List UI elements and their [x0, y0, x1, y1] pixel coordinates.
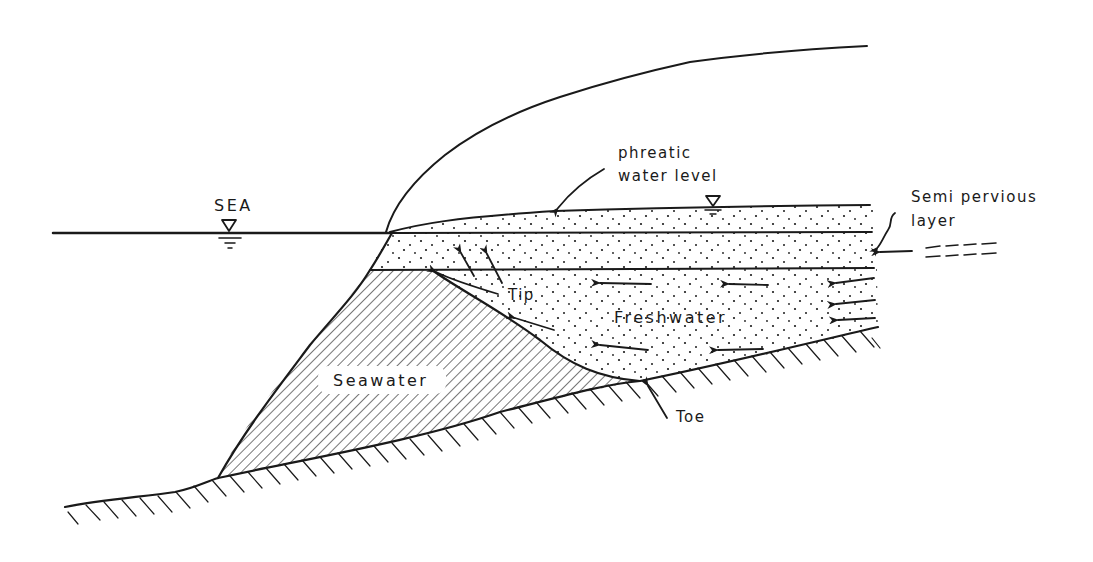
toe-label: Toe: [675, 408, 706, 426]
sea-label: SEA: [214, 196, 253, 215]
upper-aquifer-region: [370, 205, 877, 270]
phreatic-label-line1: phreatic: [618, 144, 692, 162]
semi-pervious-dashes: [926, 243, 996, 257]
seawater-intrusion-diagram: SEA: [0, 0, 1093, 562]
tip-label: Tip: [507, 286, 535, 304]
land-surface-line: [386, 46, 867, 232]
toe-pointer-arrow-icon: [648, 386, 667, 418]
semi-pervious-label-line1: Semi pervious: [911, 188, 1037, 206]
diagram-canvas: SEA: [0, 0, 1093, 562]
freshwater-label: Freshwater: [614, 308, 727, 327]
phreatic-pointer-arrow-icon: [558, 169, 604, 208]
semi-pervious-pointer-arrow-icon: [878, 213, 895, 247]
seawater-label: Seawater: [333, 371, 428, 390]
semi-pervious-label-line2: layer: [911, 212, 956, 230]
semi-pervious-inflow-arrow-icon: [880, 251, 912, 252]
phreatic-label-line2: water level: [618, 167, 718, 185]
layer-boundary-upper: [392, 232, 872, 233]
